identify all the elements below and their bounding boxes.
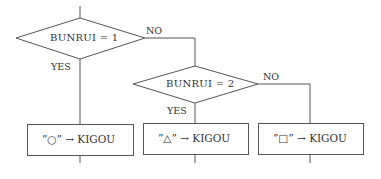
decision-1-yes-label: YES bbox=[51, 61, 71, 72]
decision-2-no-line bbox=[258, 84, 310, 123]
decision-2-yes-label: YES bbox=[167, 105, 187, 116]
process-1-text: ”○” → KIGOU bbox=[42, 133, 115, 145]
decision-1-text: BUNRUI = 1 bbox=[50, 32, 119, 43]
flowchart-lines bbox=[0, 0, 381, 179]
decision-1-no-line bbox=[145, 38, 195, 66]
decision-2-no-label: NO bbox=[263, 71, 279, 82]
decision-2-text: BUNRUI = 2 bbox=[166, 78, 235, 89]
flowchart: BUNRUI = 1 NO YES BUNRUI = 2 NO YES ”○” … bbox=[0, 0, 381, 179]
process-2-text: ”△” → KIGOU bbox=[158, 132, 230, 144]
decision-1-no-label: NO bbox=[146, 25, 162, 36]
process-3-text: ”□” → KIGOU bbox=[273, 132, 347, 144]
